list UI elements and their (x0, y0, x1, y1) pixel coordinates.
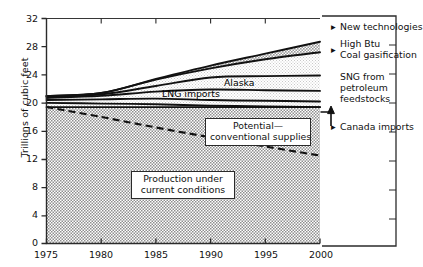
legend-item-high-btu-coal-gasification: ▸ High Btu Coal gasification (331, 38, 417, 60)
legend-label-high-btu-line2: Coal gasification (340, 49, 417, 60)
legend-item-sng-from-petroleum-feedstocks: SNG from petroleum feedstocks (340, 71, 390, 105)
legend-label-sng-line1: SNG from (340, 71, 390, 82)
callout-production-under-current-conditions: Production under current conditions (131, 171, 235, 199)
legend-label-high-btu-line1: High Btu (340, 38, 417, 49)
callout-potential-line1: Potential— (233, 120, 283, 131)
band-label-alaska: Alaska (224, 77, 254, 88)
legend-item-canada-imports: ▸Canada imports (331, 121, 414, 132)
legend-label-sng-line3: feedstocks (340, 93, 390, 104)
legend-label-sng-line2: petroleum (340, 82, 390, 93)
band-label-lng-imports: LNG imports (162, 88, 220, 99)
callout-potential-conventional-supplies: Potential— conventional supplies (205, 118, 311, 146)
callout-production-line2: current conditions (141, 184, 225, 195)
arrow-marker-icon: ▸ (331, 121, 340, 132)
legend-label-new-technologies: New technologies (340, 21, 423, 32)
arrow-marker-icon: ▸ (331, 44, 340, 55)
legend-label-canada-imports: Canada imports (340, 121, 414, 132)
callout-production-line1: Production under (143, 173, 223, 184)
legend-item-new-technologies: ▸New technologies (331, 21, 423, 32)
arrow-marker-icon: ▸ (331, 21, 340, 32)
callout-potential-line2: conventional supplies (210, 131, 311, 142)
